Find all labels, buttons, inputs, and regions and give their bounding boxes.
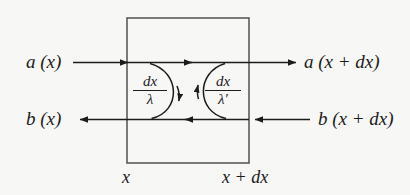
coupling-term-lambda: dx λ bbox=[133, 74, 167, 108]
arc-forward-to-backward-arrowhead bbox=[177, 86, 179, 101]
label-b-in: b (x + dx) bbox=[318, 109, 394, 128]
coupling-term-lambda-prime: dx λ′ bbox=[205, 74, 241, 108]
label-x-plus-dx: x + dx bbox=[222, 168, 268, 186]
label-x: x bbox=[122, 168, 130, 186]
label-b-out: b (x) bbox=[26, 109, 61, 128]
arc-backward-to-forward-arrowhead bbox=[197, 85, 198, 99]
coupling-term-lambda-prime-denominator: λ′ bbox=[205, 92, 241, 107]
label-a-out: a (x + dx) bbox=[304, 52, 380, 71]
coupling-term-lambda-numerator: dx bbox=[133, 74, 167, 89]
coupling-term-lambda-prime-numerator: dx bbox=[205, 74, 241, 89]
figure-canvas: a (x) a (x + dx) b (x) b (x + dx) dx λ d… bbox=[0, 0, 410, 195]
coupling-term-lambda-denominator: λ bbox=[133, 92, 167, 107]
label-a-in: a (x) bbox=[26, 52, 61, 71]
